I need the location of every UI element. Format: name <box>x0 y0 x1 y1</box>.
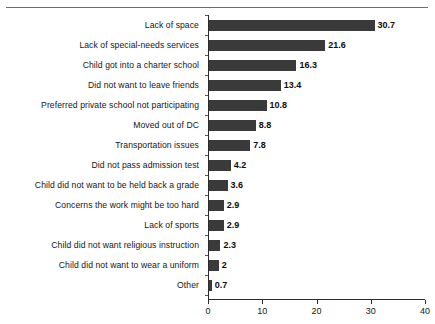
category-label: Other <box>177 275 199 295</box>
category-axis-tick <box>205 175 208 176</box>
bar-track: 2.3 <box>208 235 425 255</box>
category-axis-tick <box>205 95 208 96</box>
bar <box>208 260 219 271</box>
bar-value-label: 7.8 <box>250 135 266 155</box>
category-axis-tick <box>205 35 208 36</box>
value-axis-tick <box>317 300 318 304</box>
value-axis-tick <box>208 300 209 304</box>
bar <box>208 60 296 71</box>
bar <box>208 240 220 251</box>
bar <box>208 220 224 231</box>
category-label: Preferred private school not participati… <box>41 95 199 115</box>
category-label: Lack of sports <box>144 215 199 235</box>
bar-row: Lack of special-needs services21.6 <box>0 35 435 55</box>
bar-value-label: 8.8 <box>256 115 272 135</box>
category-axis-line <box>208 15 209 299</box>
bar <box>208 40 325 51</box>
bar-row: Concerns the work might be too hard2.9 <box>0 195 435 215</box>
bar-track: 0.7 <box>208 275 425 295</box>
bar <box>208 100 267 111</box>
value-axis-tick <box>262 300 263 304</box>
bar-track: 7.8 <box>208 135 425 155</box>
bar-track: 2 <box>208 255 425 275</box>
bar-value-label: 21.6 <box>325 35 346 55</box>
bar-value-label: 0.7 <box>212 275 228 295</box>
bar-value-label: 4.2 <box>231 155 247 175</box>
category-axis-tick <box>205 15 208 16</box>
value-axis-tick-label: 0 <box>205 306 210 316</box>
bar <box>208 180 228 191</box>
bar-track: 21.6 <box>208 35 425 55</box>
bar-track: 8.8 <box>208 115 425 135</box>
bar-row: Lack of sports2.9 <box>0 215 435 235</box>
bar-value-label: 2.3 <box>220 235 236 255</box>
bar <box>208 140 250 151</box>
category-label: Did not want to leave friends <box>88 75 199 95</box>
bar-chart-figure: Lack of space30.7Lack of special-needs s… <box>0 0 435 324</box>
bar <box>208 200 224 211</box>
category-axis-tick <box>205 215 208 216</box>
category-axis-tick <box>205 75 208 76</box>
category-axis-tick <box>205 275 208 276</box>
category-axis-tick <box>205 135 208 136</box>
category-label: Transportation issues <box>115 135 199 155</box>
bar-row: Other0.7 <box>0 275 435 295</box>
value-axis-tick-label: 10 <box>257 306 267 316</box>
bar <box>208 20 375 31</box>
category-axis-tick <box>205 55 208 56</box>
category-axis-tick <box>205 155 208 156</box>
bar <box>208 120 256 131</box>
bar-rows: Lack of space30.7Lack of special-needs s… <box>0 15 435 295</box>
bar-value-label: 3.6 <box>228 175 244 195</box>
bar-track: 10.8 <box>208 95 425 115</box>
bar-track: 3.6 <box>208 175 425 195</box>
bar-track: 16.3 <box>208 55 425 75</box>
bar-row: Child did not want religious instruction… <box>0 235 435 255</box>
bar-row: Child did not want to be held back a gra… <box>0 175 435 195</box>
category-axis-tick <box>205 235 208 236</box>
bar-value-label: 2.9 <box>224 215 240 235</box>
category-label: Did not pass admission test <box>92 155 199 175</box>
bar-value-label: 2.9 <box>224 195 240 215</box>
bar-track: 13.4 <box>208 75 425 95</box>
bar-track: 4.2 <box>208 155 425 175</box>
category-label: Lack of space <box>145 15 199 35</box>
bar-value-label: 30.7 <box>375 15 396 35</box>
bar-value-label: 10.8 <box>267 95 288 115</box>
bar-track: 2.9 <box>208 195 425 215</box>
bar-value-label: 16.3 <box>296 55 317 75</box>
value-axis-tick-label: 30 <box>366 306 376 316</box>
value-axis-tick <box>425 300 426 304</box>
bar-row: Did not pass admission test4.2 <box>0 155 435 175</box>
category-label: Child got into a charter school <box>83 55 199 75</box>
category-axis-tick <box>205 295 208 296</box>
bar <box>208 160 231 171</box>
value-axis-tick <box>371 300 372 304</box>
bar-row: Preferred private school not participati… <box>0 95 435 115</box>
bar-row: Lack of space30.7 <box>0 15 435 35</box>
category-label: Moved out of DC <box>133 115 199 135</box>
value-axis-tick-label: 40 <box>420 306 430 316</box>
bar-row: Moved out of DC8.8 <box>0 115 435 135</box>
bar-track: 30.7 <box>208 15 425 35</box>
bar-value-label: 2 <box>219 255 227 275</box>
bar-row: Transportation issues7.8 <box>0 135 435 155</box>
bar <box>208 80 281 91</box>
value-axis-tick-label: 20 <box>311 306 321 316</box>
category-label: Concerns the work might be too hard <box>55 195 199 215</box>
category-label: Child did not want religious instruction <box>51 235 199 255</box>
category-axis-tick <box>205 255 208 256</box>
bar-row: Child did not want to wear a uniform2 <box>0 255 435 275</box>
category-axis-tick <box>205 195 208 196</box>
category-label: Lack of special-needs services <box>79 35 199 55</box>
bar-row: Did not want to leave friends13.4 <box>0 75 435 95</box>
category-label: Child did not want to wear a uniform <box>59 255 199 275</box>
category-axis-tick <box>205 115 208 116</box>
bar-track: 2.9 <box>208 215 425 235</box>
category-label: Child did not want to be held back a gra… <box>35 175 199 195</box>
bar-value-label: 13.4 <box>281 75 302 95</box>
plot-area: Lack of space30.7Lack of special-needs s… <box>0 0 435 324</box>
bar-row: Child got into a charter school16.3 <box>0 55 435 75</box>
